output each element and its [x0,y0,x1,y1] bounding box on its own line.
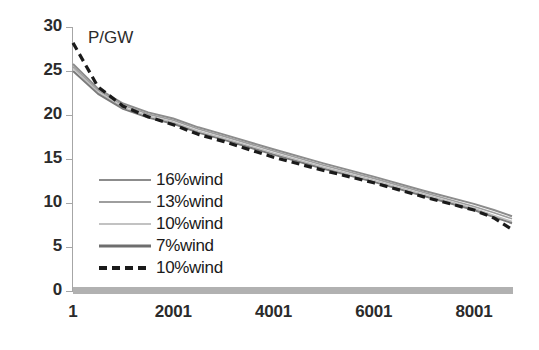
legend-label: 10%wind [153,214,223,234]
legend-label: 7%wind [153,236,214,256]
legend-item[interactable]: 16%wind [97,169,267,191]
legend-item[interactable]: 10%wind [97,257,267,279]
legend-item[interactable]: 13%wind [97,191,267,213]
chart-legend: 16%wind13%wind10%wind7%wind10%wind [97,169,267,279]
legend-label: 16%wind [153,170,223,190]
legend-item[interactable]: 10%wind [97,213,267,235]
legend-label: 13%wind [153,192,223,212]
legend-swatch-icon [97,262,153,274]
legend-label: 10%wind [153,258,223,278]
chart-container: 302520151050 12001400160018001 P/GW 16%w… [0,0,539,350]
legend-swatch-icon [97,218,153,230]
legend-swatch-icon [97,196,153,208]
legend-item[interactable]: 7%wind [97,235,267,257]
legend-swatch-icon [97,174,153,186]
legend-swatch-icon [97,240,153,252]
series-plot-area [0,0,539,350]
